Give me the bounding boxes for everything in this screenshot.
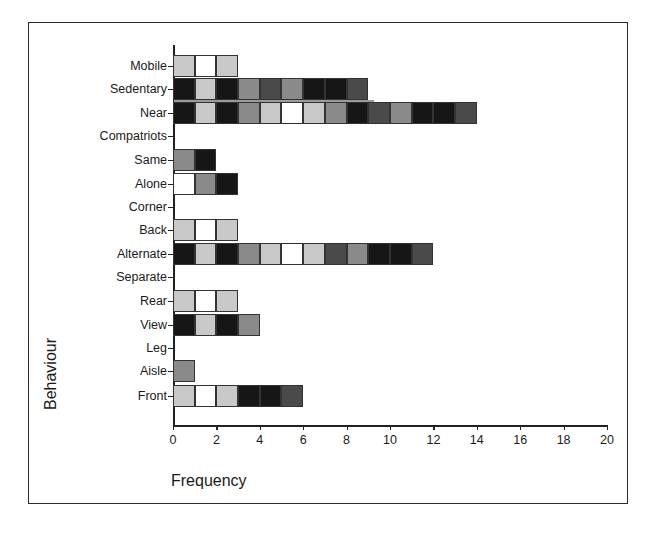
bar-segment	[281, 102, 303, 124]
y-tick	[168, 136, 173, 137]
x-tick	[433, 425, 434, 430]
bar-chart: MobileSedentaryNearCompatriotsSameAloneC…	[0, 0, 657, 534]
bar-segment	[368, 102, 390, 124]
x-tick	[303, 425, 304, 430]
bar-segment	[173, 360, 195, 382]
category-label: Near	[140, 106, 167, 120]
bar-segment	[347, 243, 369, 265]
bar-segment	[260, 385, 282, 407]
bar-segment	[216, 173, 238, 195]
x-axis-title: Frequency	[171, 472, 247, 490]
bar-segment	[260, 243, 282, 265]
x-tick	[564, 425, 565, 430]
bar-back	[173, 219, 238, 241]
bar-segment	[216, 219, 238, 241]
bar-segment	[173, 55, 195, 77]
bar-segment	[281, 385, 303, 407]
category-label: Sedentary	[110, 82, 167, 96]
y-axis-title: Behaviour	[42, 338, 60, 410]
bar-segment	[216, 78, 238, 100]
bar-segment	[195, 55, 217, 77]
bar-segment	[412, 243, 434, 265]
bar-segment	[281, 78, 303, 100]
category-label: Separate	[116, 270, 167, 284]
bar-segment	[216, 385, 238, 407]
x-tick-label: 0	[170, 433, 177, 447]
bar-segment	[195, 102, 217, 124]
bar-segment	[195, 149, 217, 171]
bar-segment	[260, 78, 282, 100]
x-tick	[347, 425, 348, 430]
bar-alone	[173, 173, 238, 195]
category-label: Corner	[129, 200, 167, 214]
bar-segment	[455, 102, 477, 124]
bar-same	[173, 149, 216, 171]
x-tick	[173, 425, 174, 430]
bar-segment	[238, 102, 260, 124]
category-label: Alone	[135, 177, 167, 191]
bar-segment	[325, 243, 347, 265]
category-label: Leg	[146, 341, 167, 355]
bar-segment	[368, 243, 390, 265]
bar-segment	[173, 219, 195, 241]
bar-rear	[173, 290, 238, 312]
y-tick	[168, 348, 173, 349]
bar-segment	[325, 102, 347, 124]
bar-segment	[195, 314, 217, 336]
x-tick	[260, 425, 261, 430]
bar-segment	[347, 102, 369, 124]
bar-segment	[173, 78, 195, 100]
bar-segment	[173, 385, 195, 407]
bar-segment	[173, 149, 195, 171]
category-label: Back	[139, 223, 167, 237]
bar-segment	[216, 102, 238, 124]
bar-segment	[238, 78, 260, 100]
bar-segment	[325, 78, 347, 100]
category-label: Rear	[140, 294, 167, 308]
category-label: Front	[138, 389, 167, 403]
bar-segment	[433, 102, 455, 124]
x-tick-label: 10	[383, 433, 397, 447]
bar-segment	[303, 102, 325, 124]
bar-segment	[195, 385, 217, 407]
bar-segment	[281, 243, 303, 265]
bar-segment	[195, 173, 217, 195]
bar-segment	[390, 102, 412, 124]
bar-segment	[238, 314, 260, 336]
x-tick-label: 8	[343, 433, 350, 447]
bar-segment	[173, 290, 195, 312]
x-tick-label: 2	[213, 433, 220, 447]
bar-near	[173, 102, 477, 124]
bar-segment	[390, 243, 412, 265]
bar-segment	[412, 102, 434, 124]
bar-front	[173, 385, 303, 407]
bar-segment	[347, 78, 369, 100]
bar-segment	[260, 102, 282, 124]
bar-segment	[216, 55, 238, 77]
x-tick-label: 18	[557, 433, 571, 447]
bar-sedentary	[173, 78, 368, 100]
bar-aisle	[173, 360, 195, 382]
x-tick	[520, 425, 521, 430]
bar-segment	[238, 385, 260, 407]
category-label: Aisle	[140, 364, 167, 378]
category-label: Mobile	[130, 59, 167, 73]
x-tick-label: 20	[600, 433, 614, 447]
bar-segment	[195, 78, 217, 100]
x-tick-label: 14	[470, 433, 484, 447]
x-tick	[607, 425, 608, 430]
x-tick	[390, 425, 391, 430]
y-tick	[168, 207, 173, 208]
bar-segment	[216, 290, 238, 312]
bar-segment	[303, 78, 325, 100]
category-label: Alternate	[117, 247, 167, 261]
category-label: View	[140, 318, 167, 332]
bar-segment	[195, 290, 217, 312]
bar-segment	[173, 173, 195, 195]
bar-segment	[195, 219, 217, 241]
bar-segment	[216, 243, 238, 265]
x-tick	[216, 425, 217, 430]
category-label: Compatriots	[100, 129, 167, 143]
bar-alternate	[173, 243, 433, 265]
bar-segment	[173, 102, 195, 124]
